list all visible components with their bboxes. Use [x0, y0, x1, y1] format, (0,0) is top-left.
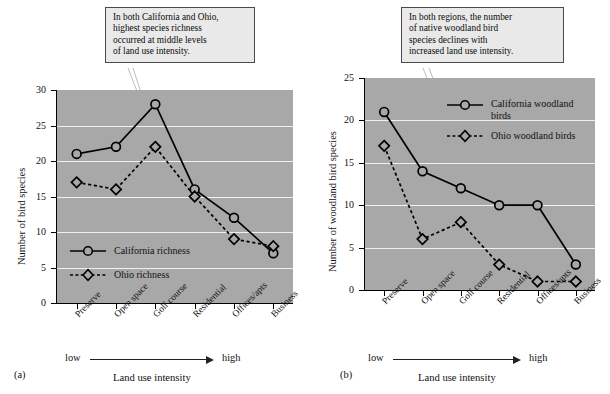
high-label-b: high	[529, 352, 547, 363]
data-point-diamond	[494, 259, 504, 269]
data-series-a	[0, 0, 305, 394]
low-label-a: low	[65, 352, 81, 363]
figure-panel-a: In both California and Ohio, highest spe…	[0, 0, 305, 394]
intensity-arrow-line-b	[393, 359, 515, 360]
data-point-circle	[72, 150, 81, 159]
figure-panel-b: In both regions, the number of native wo…	[305, 0, 610, 394]
panel-label-a: (a)	[14, 369, 26, 380]
panel-label-b: (b)	[340, 369, 352, 380]
data-point-circle	[230, 213, 239, 222]
data-point-diamond	[532, 276, 542, 286]
intensity-arrow-head-b	[513, 356, 521, 364]
x-axis-title-a: Land use intensity	[113, 372, 191, 383]
series-line	[384, 146, 576, 282]
series-line	[77, 104, 274, 253]
data-point-circle	[495, 201, 504, 210]
legend-label-a-0: California richness	[114, 245, 190, 257]
data-series-b	[305, 0, 610, 394]
data-point-circle	[151, 100, 160, 109]
intensity-arrow-head-a	[206, 356, 214, 364]
x-axis-title-b: Land use intensity	[418, 372, 496, 383]
high-label-a: high	[222, 352, 240, 363]
legend-sample-diamond-icon	[445, 128, 487, 143]
legend-label-b-0: California woodland birds	[491, 98, 579, 121]
data-point-diamond	[417, 234, 427, 244]
data-point-circle	[571, 260, 580, 269]
series-line	[77, 147, 274, 246]
legend-sample-circle-icon	[68, 243, 110, 258]
data-point-diamond	[571, 276, 581, 286]
low-label-b: low	[368, 352, 384, 363]
intensity-arrow-line-a	[90, 359, 208, 360]
data-point-diamond	[71, 177, 81, 187]
data-point-circle	[112, 142, 121, 151]
data-point-circle	[418, 167, 427, 176]
data-point-circle	[533, 201, 542, 210]
data-point-circle	[380, 108, 389, 117]
legend-label-b-1: Ohio woodland birds	[491, 130, 575, 142]
data-point-diamond	[379, 141, 389, 151]
legend-sample-circle-icon	[445, 97, 487, 112]
data-point-diamond	[111, 184, 121, 194]
data-point-diamond	[229, 234, 239, 244]
data-point-circle	[456, 184, 465, 193]
legend-sample-diamond-icon	[68, 267, 110, 282]
legend-label-a-1: Ohio richness	[114, 269, 169, 281]
